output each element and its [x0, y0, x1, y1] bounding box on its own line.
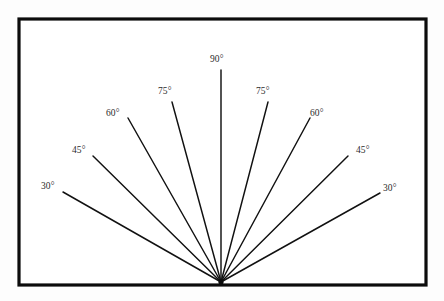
angle-label-60-left: 60° [106, 109, 120, 119]
angle-label-45-left: 45° [72, 146, 86, 156]
angle-label-30-left: 30° [41, 182, 55, 192]
angle-label-90-center: 90° [210, 55, 224, 65]
angle-label-75-left: 75° [158, 87, 172, 97]
angle-fan-canvas [0, 0, 444, 301]
angle-label-30-right: 30° [383, 184, 397, 194]
angle-label-75-right: 75° [256, 87, 270, 97]
angle-fan-figure: 30°45°60°75°90°75°60°45°30° [0, 0, 444, 301]
apex-vertex-point [218, 279, 223, 284]
angle-label-60-right: 60° [310, 109, 324, 119]
angle-label-45-right: 45° [356, 146, 370, 156]
